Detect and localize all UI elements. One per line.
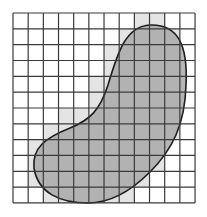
outer-cell bbox=[89, 76, 104, 92]
outer-cell bbox=[59, 108, 74, 124]
area-grid-diagram bbox=[0, 0, 207, 217]
